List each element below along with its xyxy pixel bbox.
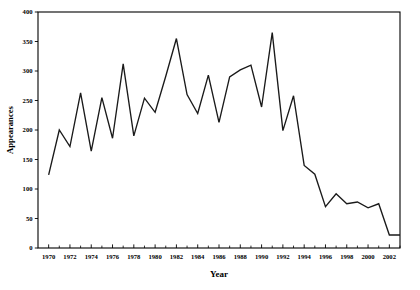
appearances-by-year-line-chart: 050100150200250300350400 197019721974197… <box>0 0 420 290</box>
x-tick-label-1998: 1998 <box>340 253 354 260</box>
x-tick-label-1970: 1970 <box>42 253 56 260</box>
x-tick-label-1980: 1980 <box>149 253 163 260</box>
x-axis-tick-labels: 1970197219741976197819801982198419861988… <box>42 253 397 260</box>
x-tick-label-1984: 1984 <box>191 253 205 260</box>
y-axis-tick-labels: 050100150200250300350400 <box>23 8 34 251</box>
y-tick-label-200: 200 <box>23 126 34 133</box>
x-tick-label-2000: 2000 <box>361 253 375 260</box>
x-tick-label-1990: 1990 <box>255 253 269 260</box>
y-tick-label-100: 100 <box>23 185 34 192</box>
data-series-group <box>49 33 400 235</box>
x-tick-label-1974: 1974 <box>85 253 99 260</box>
x-tick-label-1986: 1986 <box>212 253 226 260</box>
x-tick-label-1994: 1994 <box>298 253 312 260</box>
x-tick-label-1972: 1972 <box>63 253 77 260</box>
y-tick-label-300: 300 <box>23 67 34 74</box>
series-line-appearances <box>49 33 400 235</box>
x-tick-label-2002: 2002 <box>383 253 397 260</box>
y-tick-label-0: 0 <box>29 244 33 251</box>
x-tick-label-1978: 1978 <box>127 253 141 260</box>
y-axis-title-group: Appearances <box>5 105 15 153</box>
chart-canvas: 050100150200250300350400 197019721974197… <box>0 0 420 290</box>
y-tick-label-400: 400 <box>23 8 34 15</box>
x-tick-label-1982: 1982 <box>170 253 184 260</box>
x-tick-label-1996: 1996 <box>319 253 333 260</box>
x-tick-label-1988: 1988 <box>234 253 248 260</box>
x-axis-title: Year <box>210 269 228 279</box>
y-tick-label-50: 50 <box>26 215 33 222</box>
plot-frame <box>38 12 400 248</box>
y-tick-label-350: 350 <box>23 38 34 45</box>
y-axis-title: Appearances <box>5 105 15 153</box>
x-tick-label-1992: 1992 <box>276 253 290 260</box>
y-tick-label-250: 250 <box>23 97 34 104</box>
x-axis-title-group: Year <box>210 269 228 279</box>
x-tick-label-1976: 1976 <box>106 253 120 260</box>
y-tick-label-150: 150 <box>23 156 34 163</box>
